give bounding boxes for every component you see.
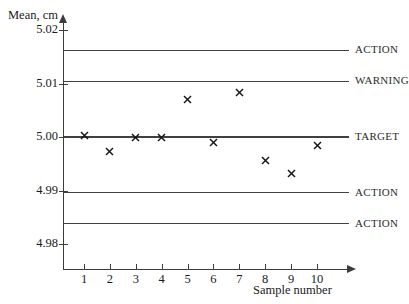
x-tick-label-2: 2 (98, 272, 122, 287)
y-tick-label-4.99: 4.99 (36, 183, 58, 198)
y-tick-5.00 (59, 137, 68, 138)
y-tick-label-4.98: 4.98 (36, 236, 58, 251)
x-tick-label-4: 4 (150, 272, 174, 287)
x-tick-9 (291, 264, 292, 270)
x-tick-8 (265, 264, 266, 270)
y-tick-5.01 (59, 84, 68, 85)
control-limit-line-target-2 (64, 136, 349, 138)
control-limit-label-action-0: ACTION (355, 43, 398, 55)
x-tick-label-8: 8 (253, 272, 277, 287)
y-tick-label-5.00: 5.00 (36, 129, 58, 144)
x-tick-10 (317, 264, 318, 270)
x-tick-label-7: 7 (227, 272, 251, 287)
y-axis-title: Mean, cm (8, 8, 58, 23)
x-tick-label-1: 1 (72, 272, 96, 287)
data-point-sample-2 (105, 147, 114, 156)
data-point-sample-1 (80, 131, 89, 140)
y-tick-4.98 (59, 244, 68, 245)
x-tick-1 (84, 264, 85, 270)
x-tick-7 (239, 264, 240, 270)
control-limit-line-action-3 (64, 192, 349, 194)
x-tick-label-10: 10 (305, 272, 329, 287)
data-point-sample-9 (287, 169, 296, 178)
x-axis-arrow-icon (347, 265, 356, 273)
y-tick-5.02 (59, 30, 68, 31)
x-tick-6 (213, 264, 214, 270)
x-tick-label-9: 9 (279, 272, 303, 287)
y-axis-line (63, 22, 64, 270)
x-tick-5 (188, 264, 189, 270)
data-point-sample-10 (313, 141, 322, 150)
top-clipped-caption (8, 0, 348, 8)
control-limit-label-action-4: ACTION (355, 217, 398, 229)
x-tick-2 (110, 264, 111, 270)
y-tick-label-5.02: 5.02 (36, 22, 58, 37)
x-tick-label-5: 5 (176, 272, 200, 287)
control-limit-line-warning-1 (64, 81, 349, 83)
x-tick-4 (162, 264, 163, 270)
x-tick-label-3: 3 (124, 272, 148, 287)
data-point-sample-5 (183, 95, 192, 104)
data-point-sample-4 (157, 133, 166, 142)
y-tick-label-5.01: 5.01 (36, 76, 58, 91)
control-limit-line-action-0 (64, 50, 349, 52)
control-limit-label-action-3: ACTION (355, 186, 398, 198)
data-point-sample-8 (261, 156, 270, 165)
control-limit-line-action-4 (64, 223, 349, 225)
x-tick-label-6: 6 (201, 272, 225, 287)
data-point-sample-3 (131, 133, 140, 142)
x-axis-line (63, 269, 348, 270)
data-point-sample-7 (235, 88, 244, 97)
x-tick-3 (136, 264, 137, 270)
control-limit-label-target-2: TARGET (355, 130, 399, 142)
data-point-sample-6 (209, 138, 218, 147)
y-tick-4.99 (59, 191, 68, 192)
control-limit-label-warning-1: WARNING (355, 74, 409, 86)
y-axis-arrow-icon (59, 14, 67, 23)
